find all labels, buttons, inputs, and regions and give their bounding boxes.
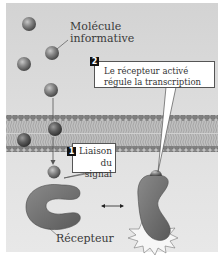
step-1-text-line2: du signal (77, 158, 112, 181)
step-2-badge: 2 (90, 57, 99, 66)
label-leader-line (57, 40, 68, 49)
bound-signal-molecule (48, 166, 61, 179)
molecule-label-line2: informative (70, 33, 134, 45)
callout-step-2: Le récepteur activé régule la transcript… (94, 61, 215, 88)
bound-signal-molecule (150, 170, 162, 176)
signal-molecule (17, 57, 31, 71)
callout-step-1: Liaison du signal (72, 143, 116, 173)
signal-molecule (48, 122, 62, 136)
signal-molecule (22, 17, 36, 31)
receptor-inactive (26, 184, 80, 229)
molecule-label: Molécule informative (70, 21, 134, 45)
receptor-label: Récepteur (56, 233, 114, 245)
signal-molecule (44, 83, 58, 97)
signal-molecule (17, 133, 31, 147)
step-2-text-line2: régule la transcription (104, 77, 214, 88)
step-1-badge: 1 (67, 147, 76, 156)
step-1-text-line1: Liaison (77, 146, 112, 158)
equilibrium-arrow (101, 204, 124, 208)
step-2-text-line1: Le récepteur activé (104, 66, 214, 77)
signal-molecule (45, 46, 59, 60)
